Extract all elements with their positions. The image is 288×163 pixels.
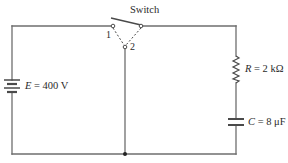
junction-dot bbox=[123, 152, 127, 156]
switch-label: Switch bbox=[130, 5, 159, 16]
source-value: 400 V bbox=[43, 80, 69, 91]
resistor-label: R = 2 kΩ bbox=[245, 64, 284, 75]
source-equals: = bbox=[31, 80, 42, 91]
switch-pivot bbox=[139, 24, 143, 28]
capacitor-icon bbox=[228, 119, 244, 125]
source-label: E = 400 V bbox=[25, 81, 68, 92]
switch-terminal-1 bbox=[111, 24, 115, 28]
resistor-value: 2 kΩ bbox=[263, 63, 284, 74]
circuit-diagram: Switch 1 2 E = 400 V R = 2 kΩ C = 8 μF bbox=[0, 0, 288, 163]
capacitor-symbol: C bbox=[248, 116, 255, 127]
resistor-icon bbox=[233, 56, 239, 83]
switch-terminal-2-label: 2 bbox=[130, 42, 135, 52]
switch-icon bbox=[111, 18, 143, 49]
capacitor-equals: = bbox=[255, 116, 266, 127]
switch-terminal-1-label: 1 bbox=[106, 30, 111, 40]
capacitor-label: C = 8 μF bbox=[248, 117, 286, 128]
capacitor-value: 8 μF bbox=[266, 116, 285, 127]
resistor-equals: = bbox=[251, 63, 262, 74]
battery-icon bbox=[4, 80, 20, 92]
switch-terminal-2 bbox=[123, 45, 127, 49]
